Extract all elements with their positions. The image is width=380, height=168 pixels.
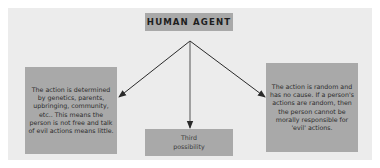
human-agent-label: HUMAN AGENT (147, 17, 231, 27)
human-agent-node: HUMAN AGENT (145, 13, 233, 31)
determined-node: The action is determined by genetics, pa… (25, 67, 117, 154)
arrow-to-right (190, 41, 265, 97)
arrow-to-left (119, 41, 190, 97)
random-text: The action is random and has no cause. I… (269, 83, 355, 133)
third-possibility-text: Third possibility (169, 134, 209, 151)
third-possibility-node: Third possibility (145, 129, 233, 156)
determined-text: The action is determined by genetics, pa… (28, 86, 114, 136)
random-node: The action is random and has no cause. I… (266, 63, 358, 152)
